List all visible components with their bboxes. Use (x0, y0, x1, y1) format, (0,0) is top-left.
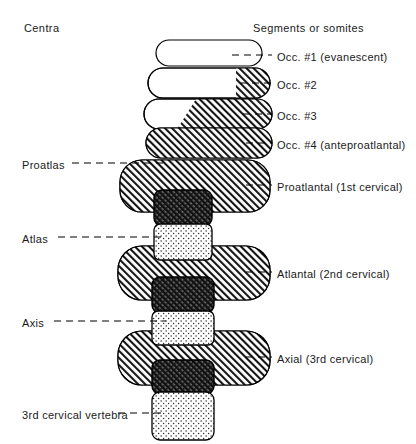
occ-4-somite-hatch (146, 128, 272, 158)
label-proatlantal: Proatlantal (1st cervical) (277, 180, 403, 195)
label-occ1: Occ. #1 (evanescent) (277, 50, 388, 65)
occ-1-somite (156, 40, 262, 66)
diagram-canvas: Centra Segments or somites Occ. #1 (evan… (0, 0, 416, 444)
label-occ3: Occ. #3 (277, 109, 317, 124)
label-occ2: Occ. #2 (277, 78, 317, 93)
axis-centrum (152, 311, 214, 345)
header-segments-or-somites: Segments or somites (253, 22, 364, 34)
neural-arch-shapes (152, 190, 214, 394)
header-centra: Centra (24, 22, 59, 34)
label-third-cervical-vertebra: 3rd cervical vertebra (22, 408, 132, 423)
label-atlas: Atlas (22, 232, 48, 247)
centra-shapes (152, 224, 214, 440)
label-proatlas: Proatlas (22, 158, 65, 173)
label-occ4: Occ. #4 (anteproatlantal) (277, 138, 406, 153)
atlas-centrum (154, 224, 212, 260)
third-cervical-centrum (152, 392, 214, 440)
label-atlantal: Atlantal (2nd cervical) (277, 267, 390, 282)
proatlas-neural-arch (154, 190, 212, 226)
axis-neural-arch (152, 360, 214, 394)
vertebral-segment-diagram (0, 0, 416, 444)
atlas-neural-arch (152, 277, 214, 313)
label-axis: Axis (22, 316, 44, 331)
label-axial: Axial (3rd cervical) (277, 352, 373, 367)
